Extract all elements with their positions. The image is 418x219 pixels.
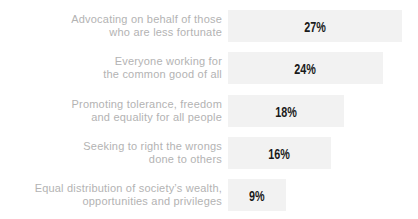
category-label: Advocating on behalf of thosewho are les… bbox=[0, 10, 222, 42]
bar: 16% bbox=[228, 137, 331, 169]
bar-chart: Advocating on behalf of thosewho are les… bbox=[0, 0, 418, 219]
bar: 18% bbox=[228, 95, 344, 127]
category-label-line: Equal distribution of society’s wealth, bbox=[35, 182, 222, 195]
chart-row: Everyone working forthe common good of a… bbox=[0, 52, 418, 84]
value-label: 24% bbox=[295, 60, 317, 77]
value-label: 16% bbox=[269, 145, 291, 162]
category-label-line: done to others bbox=[149, 153, 222, 166]
chart-row: Equal distribution of society’s wealth,o… bbox=[0, 179, 418, 211]
category-label: Equal distribution of society’s wealth,o… bbox=[0, 179, 222, 211]
chart-row: Promoting tolerance, freedomand equality… bbox=[0, 95, 418, 127]
value-label: 27% bbox=[304, 18, 326, 35]
chart-row: Seeking to right the wrongsdone to other… bbox=[0, 137, 418, 169]
category-label-line: Advocating on behalf of those bbox=[71, 13, 222, 26]
category-label-line: Seeking to right the wrongs bbox=[83, 140, 222, 153]
category-label-line: Promoting tolerance, freedom bbox=[71, 98, 222, 111]
category-label-line: the common good of all bbox=[103, 68, 222, 81]
category-label: Promoting tolerance, freedomand equality… bbox=[0, 95, 222, 127]
category-label-line: Everyone working for bbox=[115, 55, 222, 68]
bar: 27% bbox=[228, 10, 402, 42]
bar: 9% bbox=[228, 179, 286, 211]
category-label-line: and equality for all people bbox=[91, 111, 222, 124]
category-label: Seeking to right the wrongsdone to other… bbox=[0, 137, 222, 169]
category-label: Everyone working forthe common good of a… bbox=[0, 52, 222, 84]
chart-row: Advocating on behalf of thosewho are les… bbox=[0, 10, 418, 42]
category-label-line: opportunities and privileges bbox=[82, 195, 222, 208]
value-label: 18% bbox=[275, 103, 297, 120]
bar: 24% bbox=[228, 52, 383, 84]
category-label-line: who are less fortunate bbox=[109, 26, 222, 39]
value-label: 9% bbox=[249, 187, 265, 204]
